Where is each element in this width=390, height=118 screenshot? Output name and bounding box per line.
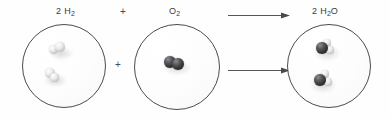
label-product-water: 2 H2O bbox=[312, 7, 338, 17]
oxygen-atom bbox=[314, 74, 326, 86]
oxygen-vessel bbox=[134, 24, 220, 110]
reaction-arrow-top bbox=[228, 6, 290, 15]
water-vessel bbox=[287, 24, 371, 108]
oxygen-atom bbox=[172, 58, 184, 70]
plus-sign-top: + bbox=[120, 7, 126, 17]
reactant1-subscript: 2 bbox=[71, 10, 75, 17]
reactant1-coefficient: 2 bbox=[56, 6, 61, 16]
label-reactant-oxygen: O2 bbox=[169, 7, 180, 17]
reactant1-symbol: H bbox=[64, 6, 71, 16]
reaction-arrow-bottom-glyph bbox=[228, 66, 290, 75]
product-symbol: H bbox=[320, 6, 327, 16]
water-molecule bbox=[315, 39, 339, 61]
product-coefficient: 2 bbox=[312, 6, 317, 16]
reaction-arrow-bottom bbox=[228, 61, 290, 70]
hydrogen-molecule bbox=[44, 68, 68, 86]
water-molecule bbox=[312, 70, 336, 92]
hydrogen-molecule bbox=[49, 42, 73, 58]
hydrogen-atom bbox=[50, 73, 59, 82]
plus-sign-middle: + bbox=[115, 60, 121, 70]
reaction-arrow-top-glyph bbox=[228, 11, 290, 20]
reactant2-subscript: 2 bbox=[176, 10, 180, 17]
hydrogen-atom bbox=[55, 42, 65, 52]
reaction-diagram: 2 H2 + O2 2 H2O + bbox=[0, 0, 390, 118]
hydrogen-vessel bbox=[22, 24, 106, 108]
oxygen-molecule bbox=[164, 55, 192, 73]
product-oxygen-symbol: O bbox=[331, 6, 338, 16]
label-reactant-hydrogen: 2 H2 bbox=[56, 7, 75, 17]
oxygen-atom bbox=[316, 42, 328, 54]
